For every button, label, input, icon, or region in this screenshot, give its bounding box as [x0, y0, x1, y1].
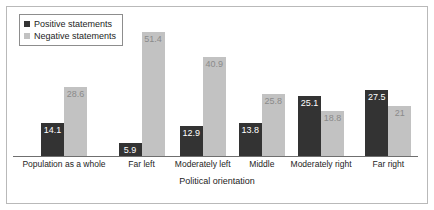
legend-swatch-icon-positive — [24, 21, 30, 27]
bar-value-label: 12.9 — [180, 128, 203, 138]
bar-positive[interactable]: 25.1 — [298, 96, 321, 157]
bar-value-label: 25.8 — [262, 96, 285, 106]
bar-group: 13.825.8 — [237, 12, 286, 157]
category-label: Population as a whole — [13, 159, 115, 170]
category-label: Moderately left — [168, 159, 237, 170]
x-axis-category-labels: Population as a wholeFar leftModerately … — [13, 159, 421, 170]
category-label: Far right — [356, 159, 421, 170]
bar-pair: 12.940.9 — [180, 12, 226, 157]
bar-value-label: 40.9 — [203, 59, 226, 69]
bar-value-label: 21 — [388, 108, 411, 118]
legend-label-positive: Positive statements — [34, 18, 112, 30]
bar-negative[interactable]: 28.6 — [64, 87, 87, 157]
category-label: Middle — [237, 159, 286, 170]
bar-positive[interactable]: 14.1 — [41, 123, 64, 157]
bar-pair: 5.951.4 — [119, 12, 165, 157]
bar-group: 27.521 — [356, 12, 421, 157]
x-axis-line — [13, 156, 418, 157]
chart-legend: Positive statements Negative statements — [19, 14, 123, 46]
bar-negative[interactable]: 18.8 — [321, 111, 344, 157]
bar-value-label: 27.5 — [365, 92, 388, 102]
bar-value-label: 18.8 — [321, 113, 344, 123]
legend-item-positive-statements: Positive statements — [24, 18, 116, 30]
bar-positive[interactable]: 13.8 — [239, 123, 262, 157]
bar-group: 25.118.8 — [286, 12, 355, 157]
legend-label-negative: Negative statements — [34, 30, 116, 42]
bar-value-label: 5.9 — [119, 145, 142, 155]
bar-group: 12.940.9 — [168, 12, 237, 157]
bar-value-label: 14.1 — [41, 125, 64, 135]
bar-pair: 13.825.8 — [239, 12, 285, 157]
bar-negative[interactable]: 51.4 — [142, 32, 165, 157]
category-label: Far left — [115, 159, 168, 170]
legend-swatch-icon-negative — [24, 33, 30, 39]
bar-positive[interactable]: 12.9 — [180, 126, 203, 157]
category-label: Moderately right — [286, 159, 355, 170]
bar-pair: 25.118.8 — [298, 12, 344, 157]
bar-positive[interactable]: 27.5 — [365, 90, 388, 157]
chart-figure: Positive statements Negative statements … — [0, 0, 434, 210]
x-axis-title: Political orientation — [0, 176, 434, 186]
bar-positive[interactable]: 5.9 — [119, 143, 142, 157]
bar-value-label: 28.6 — [64, 89, 87, 99]
bar-value-label: 25.1 — [298, 98, 321, 108]
bar-negative[interactable]: 25.8 — [262, 94, 285, 157]
bar-value-label: 13.8 — [239, 125, 262, 135]
bar-value-label: 51.4 — [142, 34, 165, 44]
bar-negative[interactable]: 40.9 — [203, 57, 226, 157]
bar-negative[interactable]: 21 — [388, 106, 411, 157]
legend-item-negative-statements: Negative statements — [24, 30, 116, 42]
bar-pair: 27.521 — [365, 12, 411, 157]
